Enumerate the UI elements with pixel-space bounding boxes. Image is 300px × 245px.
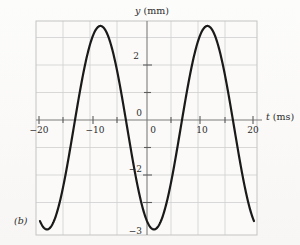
y-axis-label-unit: (mm) [143, 5, 168, 16]
x-tick-label--20: −20 [30, 125, 49, 135]
x-axis-label-unit: (ms) [273, 111, 294, 122]
x-axis-label: t(ms) [266, 111, 294, 122]
y-tick-label-2: 2 [133, 51, 139, 61]
x-tick-label-0: 0 [150, 125, 156, 135]
x-tick-label-10: 10 [196, 125, 208, 135]
y-tick-label--3: −3 [129, 226, 143, 236]
y-axis-label-symbol: y [134, 5, 141, 16]
y-axis-label: y(mm) [134, 5, 169, 16]
figure-page: −20 −10 0 10 20 2 0 −2 −3 y(mm) t(ms) (b… [0, 0, 300, 245]
x-tick-label--10: −10 [86, 125, 105, 135]
x-axis-label-symbol: t [266, 111, 270, 122]
panel-label: (b) [14, 215, 28, 226]
y-tick-label-0: 0 [136, 108, 142, 118]
wave-graph-figure: −20 −10 0 10 20 2 0 −2 −3 y(mm) t(ms) (b… [0, 0, 300, 245]
y-tick-label--2: −2 [129, 164, 142, 174]
x-tick-label-20: 20 [247, 125, 259, 135]
